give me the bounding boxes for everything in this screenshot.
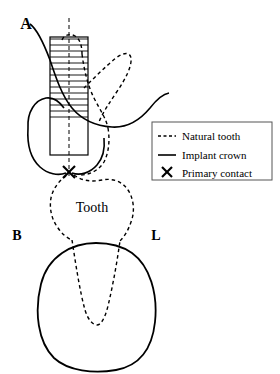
label-a: A xyxy=(20,15,32,32)
label-l-lingual: L xyxy=(151,228,160,243)
diagram-canvas: A B L Tooth Natural tooth Implant crown xyxy=(0,0,280,374)
legend-label-natural-tooth: Natural tooth xyxy=(182,130,241,142)
legend-label-primary-contact: Primary contact xyxy=(182,167,252,179)
lower-tooth-crown-left xyxy=(50,176,72,240)
legend: Natural tooth Implant crown Primary cont… xyxy=(152,122,272,180)
figure-root: A B L Tooth Natural tooth Implant crown xyxy=(0,0,280,374)
legend-label-implant-crown: Implant crown xyxy=(182,149,247,161)
label-tooth: Tooth xyxy=(76,200,108,215)
natural-tooth-cusp-loop xyxy=(84,54,131,123)
implant-body-outline xyxy=(38,243,156,372)
label-b-buccal: B xyxy=(12,228,21,243)
natural-tooth-root-dashed xyxy=(72,240,120,325)
